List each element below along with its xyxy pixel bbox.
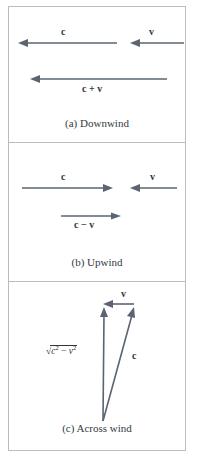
radicand: c2 − v2	[50, 345, 77, 356]
vector-v-arrow	[130, 184, 177, 192]
wind-triangle-figure: c v c + v (a) Downwind c v c − v	[0, 0, 197, 459]
radicand-minus: −	[61, 346, 66, 356]
radicand-v-exponent: 2	[73, 344, 76, 351]
caption-downwind: (a) Downwind	[9, 117, 185, 129]
label-v-across: v	[121, 288, 126, 299]
caption-across-wind: (c) Across wind	[9, 422, 185, 434]
panel-across-wind: v c √c2 − v2 (c) Across wind	[8, 281, 186, 451]
vector-resultant-arrow	[100, 307, 108, 421]
radicand-c-exponent: 2	[55, 344, 58, 351]
vector-c-arrow	[103, 307, 135, 421]
vector-v-arrow	[130, 39, 184, 47]
vector-c-arrow	[22, 184, 113, 192]
caption-upwind: (b) Upwind	[9, 256, 185, 268]
label-v-upwind: v	[150, 171, 155, 182]
label-c-upwind: c	[61, 171, 65, 182]
panel-downwind: c v c + v (a) Downwind	[8, 6, 186, 143]
label-c-plus-v: c + v	[82, 83, 102, 94]
vector-c-arrow	[18, 39, 117, 47]
vector-c-plus-v-arrow	[30, 75, 167, 83]
label-sqrt-c2-minus-v2: √c2 − v2	[46, 344, 77, 356]
label-c-across: c	[132, 350, 136, 361]
label-v-downwind: v	[149, 26, 154, 37]
panel-upwind: c v c − v (b) Upwind	[8, 142, 186, 282]
vector-v-arrow	[103, 300, 134, 308]
label-c-downwind: c	[61, 26, 65, 37]
label-c-minus-v: c − v	[74, 219, 94, 230]
